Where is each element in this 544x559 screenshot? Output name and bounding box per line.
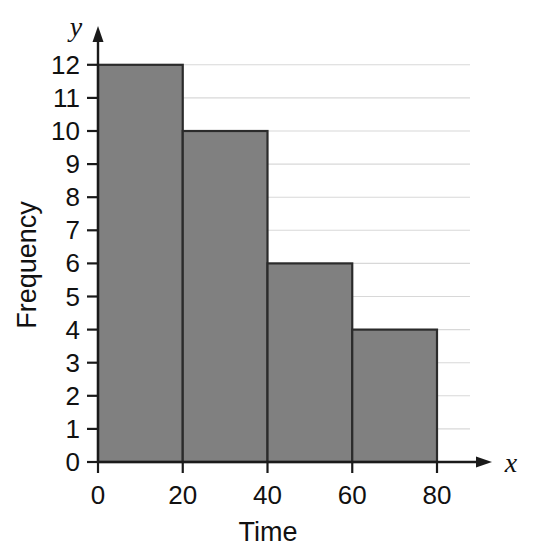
- x-axis-tick-label: 80: [423, 480, 452, 510]
- y-axis-tick-label: 1: [66, 414, 80, 444]
- y-axis-tick-label: 10: [51, 116, 80, 146]
- y-axis-title: Frequency: [12, 201, 42, 329]
- y-axis-tick-label: 11: [53, 83, 80, 113]
- bar: [183, 131, 268, 462]
- bar: [98, 65, 183, 462]
- y-axis-tick-label: 4: [66, 315, 80, 345]
- y-axis-tick-label: 0: [66, 447, 80, 477]
- x-axis-title: Time: [239, 517, 298, 547]
- y-axis-tick-label: 6: [66, 248, 80, 278]
- x-axis-tick-label: 0: [91, 480, 105, 510]
- bar: [352, 330, 437, 462]
- y-axis-tick-label: 12: [51, 50, 80, 80]
- y-axis-variable-label: y: [67, 11, 83, 42]
- chart-canvas: 0123456789101112 020406080 y x Frequency…: [0, 0, 544, 559]
- y-axis-tick-label: 2: [66, 381, 80, 411]
- x-axis-tick-label: 60: [338, 480, 367, 510]
- histogram-chart: 0123456789101112 020406080 y x Frequency…: [0, 0, 544, 559]
- x-axis-tick-label: 40: [253, 480, 282, 510]
- x-axis-tick-label: 20: [168, 480, 197, 510]
- y-axis-tick-label: 5: [66, 282, 80, 312]
- y-axis-tick-label: 3: [66, 348, 80, 378]
- y-axis-tick-label: 8: [66, 182, 80, 212]
- y-axis-tick-label: 7: [66, 215, 80, 245]
- y-axis-tick-label: 9: [66, 149, 80, 179]
- bar: [268, 263, 353, 462]
- x-axis-variable-label: x: [504, 447, 518, 478]
